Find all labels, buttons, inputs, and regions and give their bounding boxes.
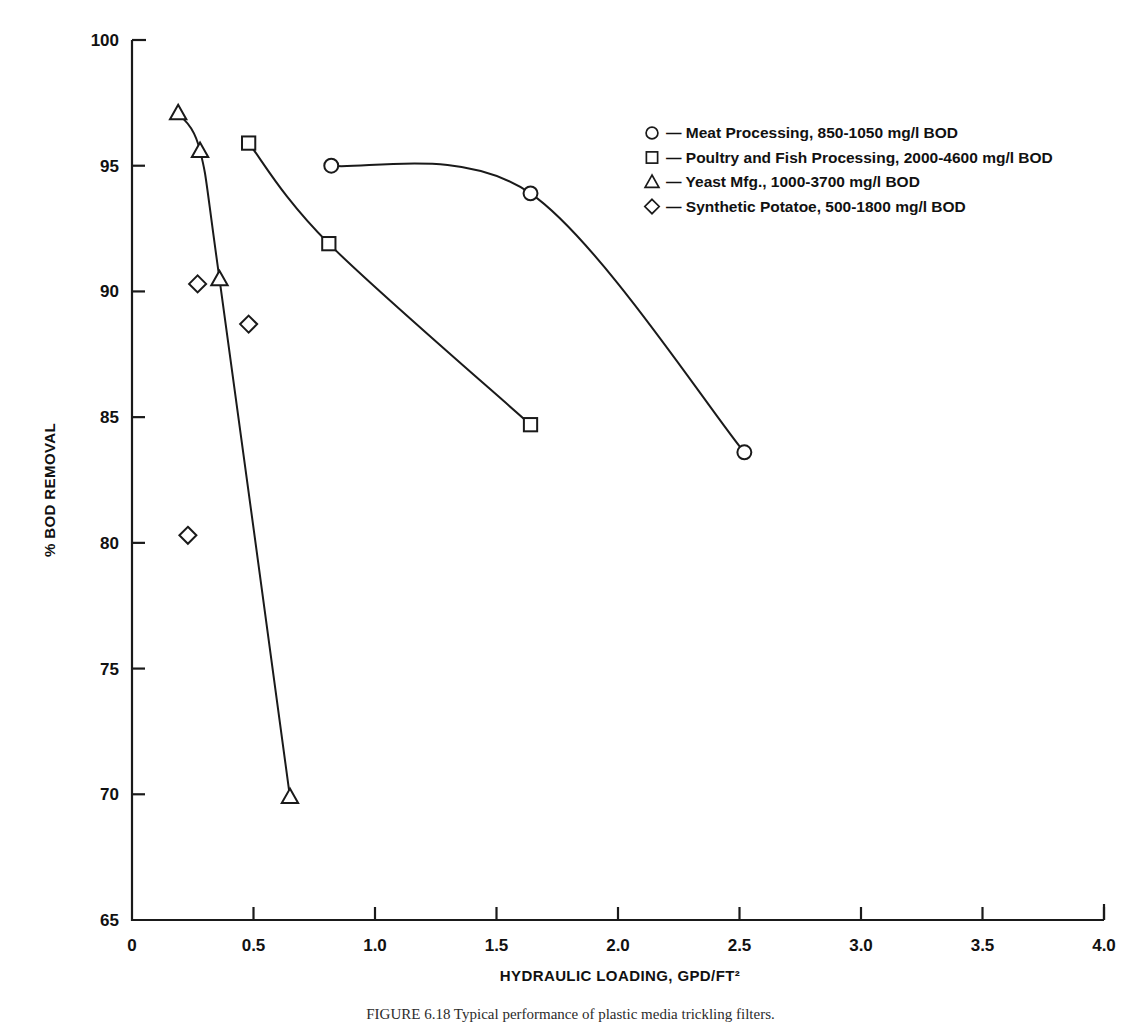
- figure-caption: FIGURE 6.18 Typical performance of plast…: [0, 1006, 1141, 1024]
- circle-marker: [646, 127, 658, 139]
- series-group-item: [242, 136, 537, 431]
- triangle-marker: [192, 142, 208, 156]
- diamond-marker: [240, 316, 257, 333]
- circle-marker: [737, 445, 751, 459]
- square-marker: [322, 237, 335, 250]
- triangle-marker: [282, 789, 298, 803]
- chart-plot: 00.51.01.52.02.53.03.54.0657075808590951…: [0, 0, 1141, 1024]
- x-tick-label: 2.5: [728, 936, 752, 955]
- y-tick-label: 70: [100, 785, 119, 804]
- diamond-marker: [645, 199, 659, 213]
- legend-item-label: — Synthetic Potatoe, 500-1800 mg/l BOD: [666, 198, 966, 215]
- legend-item: — Poultry and Fish Processing, 2000-4600…: [646, 149, 1052, 166]
- x-axis-title: HYDRAULIC LOADING, GPD/FT²: [500, 967, 740, 984]
- y-tick-label: 80: [100, 534, 119, 553]
- x-tick-label: 1.0: [363, 936, 387, 955]
- y-axis-title: % BOD REMOVAL: [41, 423, 58, 557]
- x-tick-label: 0: [127, 936, 136, 955]
- legend-item: — Synthetic Potatoe, 500-1800 mg/l BOD: [645, 198, 966, 215]
- x-tick-label: 1.5: [485, 936, 509, 955]
- legend-item-label: — Poultry and Fish Processing, 2000-4600…: [666, 149, 1053, 166]
- series-curve: [249, 143, 531, 425]
- axes: 00.51.01.52.02.53.03.54.0657075808590951…: [91, 31, 1116, 955]
- series-group-item: [179, 275, 257, 543]
- chart-legend: — Meat Processing, 850-1050 mg/l BOD— Po…: [645, 124, 1053, 215]
- diamond-marker: [189, 275, 206, 292]
- figure-page: 00.51.01.52.02.53.03.54.0657075808590951…: [0, 0, 1141, 1024]
- legend-item: — Yeast Mfg., 1000-3700 mg/l BOD: [645, 173, 920, 190]
- series-group-item: [170, 105, 298, 803]
- triangle-marker: [170, 105, 186, 119]
- circle-marker: [324, 159, 338, 173]
- square-marker: [242, 136, 255, 149]
- x-tick-label: 3.0: [849, 936, 873, 955]
- diamond-marker: [179, 527, 196, 544]
- data-series: [170, 105, 751, 803]
- y-tick-label: 65: [100, 911, 119, 930]
- x-tick-label: 3.5: [971, 936, 995, 955]
- y-tick-label: 95: [100, 157, 119, 176]
- circle-marker: [524, 186, 538, 200]
- y-tick-label: 85: [100, 408, 119, 427]
- triangle-marker: [645, 175, 659, 187]
- y-tick-label: 100: [91, 31, 119, 50]
- x-tick-label: 0.5: [242, 936, 266, 955]
- x-tick-label: 2.0: [606, 936, 630, 955]
- x-tick-label: 4.0: [1092, 936, 1116, 955]
- y-tick-label: 75: [100, 660, 119, 679]
- legend-item: — Meat Processing, 850-1050 mg/l BOD: [646, 124, 958, 141]
- triangle-marker: [211, 271, 227, 285]
- legend-item-label: — Yeast Mfg., 1000-3700 mg/l BOD: [666, 173, 920, 190]
- legend-item-label: — Meat Processing, 850-1050 mg/l BOD: [666, 124, 958, 141]
- square-marker: [646, 152, 657, 163]
- y-tick-label: 90: [100, 282, 119, 301]
- series-curve: [178, 113, 290, 797]
- square-marker: [524, 418, 537, 431]
